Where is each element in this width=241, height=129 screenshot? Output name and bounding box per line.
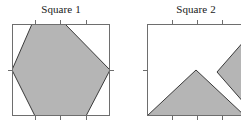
panel-title-square-1: Square 1 [0,3,122,15]
shapes-square-2 [147,40,241,116]
panel-title-square-2: Square 2 [135,3,241,15]
figure-container: Square 1 Square 2 [0,0,241,129]
shaded-polygon-1 [12,24,110,116]
panel-square-1 [8,20,114,120]
panel-square-2 [143,20,241,120]
shapes-square-1 [12,24,110,116]
plot-area [0,0,241,129]
